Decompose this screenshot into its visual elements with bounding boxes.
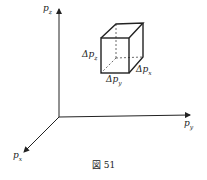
pz-axis-label: pz <box>43 3 52 15</box>
momentum-space-diagram: pz py px Δpz Δpy Δpx 図 51 <box>0 0 207 180</box>
delta-py-label: Δpy <box>106 74 122 86</box>
delta-px-label: Δpx <box>136 64 152 76</box>
delta-pz-label: Δpz <box>82 49 97 61</box>
figure-caption: 図 51 <box>0 158 207 171</box>
y-axis <box>59 115 190 117</box>
diagram-canvas <box>0 0 207 180</box>
py-axis-label: py <box>184 118 193 130</box>
x-axis <box>24 117 59 152</box>
